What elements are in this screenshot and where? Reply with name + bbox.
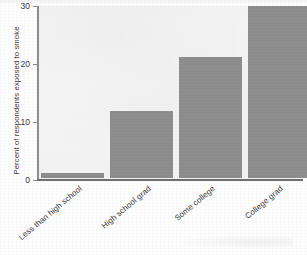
y-axis-title: Percent of respondents exposed to smoke bbox=[12, 13, 21, 189]
y-tick-mark-30 bbox=[33, 6, 37, 7]
x-tick-label-less-than-high-school: Less than high school bbox=[17, 184, 84, 242]
x-tick-label-high-school-grad: High school grad bbox=[100, 184, 153, 231]
x-tick-label-some-college: Some college bbox=[173, 184, 217, 223]
y-tick-mark-20 bbox=[33, 64, 37, 65]
scan-edge-shadow bbox=[0, 0, 307, 4]
y-tick-label-20: 20 bbox=[20, 59, 30, 69]
y-tick-label-10: 10 bbox=[20, 117, 30, 127]
y-axis-line bbox=[37, 6, 39, 180]
scan-artifact bbox=[173, 235, 293, 249]
bar-some-college bbox=[179, 57, 242, 179]
y-tick-mark-10 bbox=[33, 122, 37, 123]
bar-chart-figure: Percent of respondents exposed to smoke … bbox=[0, 0, 307, 255]
x-tick-label-college-grad: College grad bbox=[243, 184, 284, 221]
plot-area: 30 20 10 0 bbox=[37, 4, 303, 180]
bar-less-than-high-school bbox=[41, 173, 104, 179]
y-tick-mark-0 bbox=[33, 180, 37, 181]
bar-high-school-grad bbox=[110, 111, 173, 178]
x-axis-baseline bbox=[37, 179, 303, 181]
bar-college-grad bbox=[248, 6, 307, 179]
y-tick-label-0: 0 bbox=[25, 175, 30, 185]
